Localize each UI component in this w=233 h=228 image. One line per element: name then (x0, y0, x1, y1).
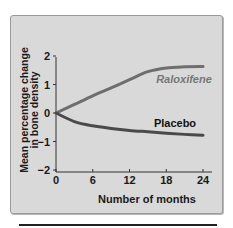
x-axis-label: Number of months (98, 193, 196, 205)
x-tick-label: 18 (160, 174, 172, 186)
y-tick-label: 0 (44, 107, 50, 119)
y-axis-label: Mean percentage change in bone density (19, 40, 39, 180)
y-tick-label: 1 (44, 79, 50, 91)
y-axis-label-line2: in bone density (29, 40, 39, 180)
raloxifene-label: Raloxifene (156, 73, 212, 85)
x-tick-label: 6 (90, 174, 96, 186)
y-tick-label: 2 (44, 50, 50, 62)
placebo-label: Placebo (154, 117, 196, 129)
x-tick-label: 24 (197, 174, 210, 186)
y-tick-label: −2 (37, 164, 50, 176)
y-ticks: 210−1−2 (37, 50, 56, 176)
x-tick-label: 0 (53, 174, 59, 186)
bottom-divider (19, 224, 217, 226)
x-tick-label: 12 (123, 174, 135, 186)
